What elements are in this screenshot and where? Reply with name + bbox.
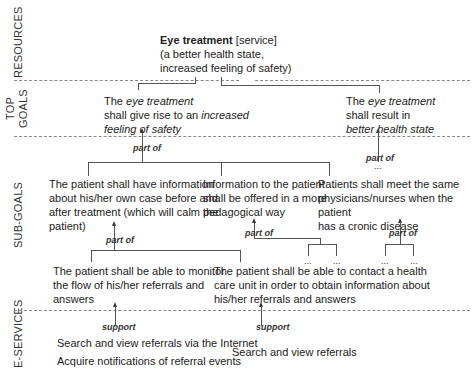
connector (91, 250, 92, 262)
relation-part-of: part of (389, 228, 417, 238)
resource-eye-treatment: Eye treatment [service] (a better health… (160, 33, 291, 75)
e-service-acquire-notifications: Acquire notifications of referral events (57, 354, 241, 368)
text: the flow of his/her referrals and (53, 278, 225, 292)
connector (385, 244, 413, 245)
relation-part-of: part of (106, 235, 134, 245)
lane-divider-sub-goals (14, 310, 470, 311)
lane-divider-resources (14, 80, 239, 81)
text: Information to the patient (203, 177, 327, 191)
resource-tag: [service] (236, 34, 277, 46)
text-em: eye treatment (368, 95, 435, 107)
connector (254, 238, 320, 239)
resource-title: Eye treatment (160, 34, 233, 46)
text: The (346, 95, 368, 107)
lane-label-resources: RESOURCES (12, 7, 24, 78)
text: his/her referrals and answers (214, 292, 430, 306)
relation-support: support (256, 322, 290, 332)
lane-label-sub-goals: SUB-GOALS (12, 182, 24, 248)
text: care unit in order to obtain information… (214, 278, 430, 292)
connector (308, 244, 336, 245)
lane-label-top-goals: TOP GOALS (4, 89, 30, 128)
text: The patient shall have information (49, 177, 218, 191)
text-em: eye treatment (126, 95, 193, 107)
connector (221, 85, 379, 86)
connector (138, 83, 139, 90)
text: The patient shall be able to contact a h… (214, 264, 430, 278)
text: shall give rise to an (104, 109, 201, 121)
connector (308, 244, 309, 256)
text: after treatment (which will calm the (49, 205, 218, 219)
connector (88, 162, 330, 163)
top-goal-better-health: The eye treatment shall result in better… (346, 94, 435, 136)
connector (329, 162, 330, 176)
e-service-search-view: Search and view referrals (232, 345, 357, 359)
top-goal-increased-safety: The eye treatment shall give rise to an … (104, 94, 249, 136)
resource-line3: increased feeling of safety) (160, 61, 291, 75)
ellipsis: ... (374, 161, 382, 171)
relation-part-of: part of (245, 228, 273, 238)
sub-goal-own-case-info: The patient shall have information about… (49, 177, 218, 233)
text: about his/her own case before and (49, 191, 218, 205)
text: shall be offered in a more (203, 191, 327, 205)
connector (385, 244, 386, 256)
text: physicians/nurses when the patient (318, 191, 473, 219)
resource-line2: (a better health state, (160, 47, 291, 61)
text: patient) (49, 219, 218, 233)
connector (240, 250, 241, 262)
text: Patients shall meet the same (318, 177, 473, 191)
connector (336, 244, 337, 256)
connector (413, 244, 414, 256)
connector (88, 162, 89, 176)
sub-goal-same-physicians: Patients shall meet the same physicians/… (318, 177, 473, 233)
connector (91, 250, 240, 251)
text: answers (53, 292, 225, 306)
sub-goal-pedagogical-info: Information to the patient shall be offe… (203, 177, 327, 219)
lane-divider-resources-right (255, 80, 470, 81)
text: The patient shall be able to monitor (53, 264, 225, 278)
text: pedagogical way (203, 205, 327, 219)
lane-divider-top-goals (14, 136, 470, 137)
connector (138, 83, 196, 84)
e-service-search-view-internet: Search and view referrals via the Intern… (57, 336, 258, 350)
leaf-goal-monitor-referrals: The patient shall be able to monitor the… (53, 264, 225, 306)
relation-support: support (102, 322, 136, 332)
connector (379, 85, 380, 93)
text: shall result in (346, 108, 435, 122)
text-em: better health state (346, 123, 434, 135)
text-em: increased (201, 109, 249, 121)
text: The (104, 95, 126, 107)
lane-label-top: TOP (4, 89, 17, 128)
connector (221, 77, 222, 85)
relation-part-of: part of (133, 143, 161, 153)
leaf-goal-contact-care-unit: The patient shall be able to contact a h… (214, 264, 430, 306)
lane-label-goals: GOALS (17, 89, 30, 128)
connector (221, 162, 222, 176)
